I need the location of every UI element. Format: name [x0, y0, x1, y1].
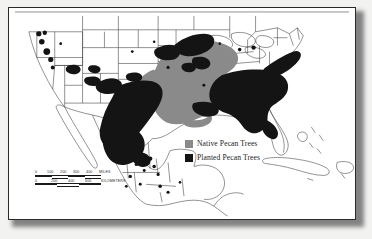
scale-km-tick-0: 0 — [35, 179, 51, 183]
scale-km-tick-3: 600 — [85, 179, 101, 183]
scale-miles-tick-2: 200 — [60, 170, 73, 174]
legend-item-planted: Planted Pecan Trees — [185, 154, 260, 162]
scale-km-tick-1: 200 — [51, 179, 68, 183]
scale-miles-unit: MILES — [99, 170, 111, 174]
map-legend: Native Pecan Trees Planted Pecan Trees — [185, 140, 260, 168]
scale-miles: 0 100 200 300 400 MILES — [35, 170, 126, 177]
scale-miles-tick-3: 300 — [73, 170, 86, 174]
native-swatch — [185, 140, 193, 148]
scale-miles-tick-4: 400 — [86, 170, 99, 174]
map-scale-bar: 0 100 200 300 400 MILES 0 200 400 600 — [35, 170, 126, 187]
scale-miles-bar — [35, 175, 101, 177]
planted-swatch — [185, 154, 193, 162]
scale-km-bar — [35, 183, 101, 185]
scale-miles-tick-0: 0 — [35, 170, 47, 174]
scale-km-tick-2: 400 — [68, 179, 85, 183]
map-figure: Native Pecan Trees Planted Pecan Trees 0… — [0, 0, 372, 239]
scale-miles-labels: 0 100 200 300 400 MILES — [35, 170, 126, 174]
scale-miles-tick-1: 100 — [47, 170, 60, 174]
map-frame: Native Pecan Trees Planted Pecan Trees 0… — [8, 7, 356, 220]
legend-label-native: Native Pecan Trees — [197, 140, 257, 148]
legend-item-native: Native Pecan Trees — [185, 140, 260, 148]
scale-km-labels: 0 200 400 600 KILOMETERS — [35, 179, 126, 183]
legend-label-planted: Planted Pecan Trees — [197, 154, 260, 162]
scale-kilometers: 0 200 400 600 KILOMETERS — [35, 179, 126, 186]
scale-km-unit: KILOMETERS — [101, 179, 126, 183]
